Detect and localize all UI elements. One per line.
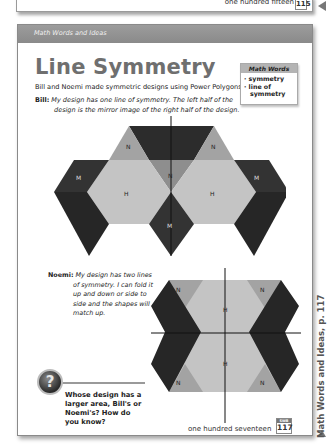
previous-page-arrow-icon[interactable] xyxy=(318,1,326,11)
intro-text: Bill and Noemi made symmetric designs us… xyxy=(35,83,244,91)
shape-label-n: N xyxy=(168,172,173,179)
noemi-design-figure: N N H H N N xyxy=(151,268,301,423)
shape-label-h: H xyxy=(223,360,228,367)
previous-page-footer-text: one hundred fifteen xyxy=(225,0,294,6)
previous-page-card: one hundred fifteen 115 xyxy=(16,0,313,12)
question-divider xyxy=(62,382,145,384)
shape-label-n: N xyxy=(260,379,265,386)
page-footer-text: one hundred seventeen xyxy=(188,425,271,433)
previous-page-number: 115 xyxy=(295,0,307,10)
bill-statement: Bill: My design has one line of symmetry… xyxy=(35,96,240,115)
math-words-heading: Math Words xyxy=(241,64,297,73)
shape-label-h: H xyxy=(210,190,215,197)
shape-label-m: M xyxy=(167,222,172,229)
side-page-label[interactable]: Math Words and Ideas, p. 117 xyxy=(316,295,326,438)
shape-label-n: N xyxy=(126,143,131,150)
page-number-badge: SWB 117 xyxy=(276,418,292,434)
math-words-box: Math Words · symmetry · line of symmetry xyxy=(240,63,298,105)
shape-label-n: N xyxy=(176,379,181,386)
textbook-page: Math Words and Ideas Line Symmetry Bill … xyxy=(17,24,313,436)
bill-speaker: Bill: xyxy=(35,96,49,104)
shape-label-n: N xyxy=(260,286,265,293)
shape-label-h: H xyxy=(124,190,129,197)
document-viewer: one hundred fifteen 115 Math Words and I… xyxy=(0,0,332,445)
noemi-text: My design has two lines of symmetry. I c… xyxy=(73,271,153,317)
bill-design-figure: N N N M M H H M xyxy=(54,116,286,256)
math-words-list: · symmetry · line of symmetry xyxy=(241,73,297,100)
shape-label-n: N xyxy=(211,143,216,150)
noemi-statement: Noemi: My design has two lines of symmet… xyxy=(48,271,158,319)
math-word-item: · line of symmetry xyxy=(244,83,294,98)
shape-label-m: M xyxy=(254,174,259,181)
math-word-item: · symmetry xyxy=(244,75,294,83)
noemi-speaker: Noemi: xyxy=(48,271,73,279)
section-header-label: Math Words and Ideas xyxy=(34,29,107,37)
question-text: Whose design has a larger area, Bill's o… xyxy=(65,391,145,427)
page-number: 117 xyxy=(277,423,291,433)
bill-text: My design has one line of symmetry. The … xyxy=(51,96,239,114)
section-header-bar: Math Words and Ideas xyxy=(18,25,312,43)
question-mark-icon: ? xyxy=(37,369,63,395)
shape-label-n: N xyxy=(176,286,181,293)
page-title: Line Symmetry xyxy=(35,55,216,79)
shape-label-h: H xyxy=(223,306,228,313)
shape-label-m: M xyxy=(76,174,81,181)
